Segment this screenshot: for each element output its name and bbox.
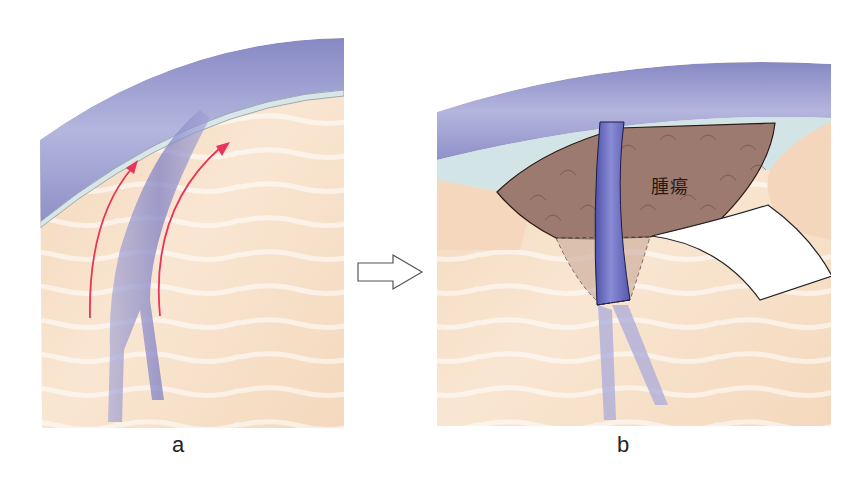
panel-a-label: a [172, 432, 184, 458]
right-arrow-icon [358, 255, 422, 289]
tumor-label: 腫瘍 [651, 172, 689, 198]
illustration-canvas [0, 0, 853, 489]
panel-b-label: b [617, 432, 629, 458]
panel-a [40, 30, 350, 430]
panel-b [437, 50, 837, 430]
